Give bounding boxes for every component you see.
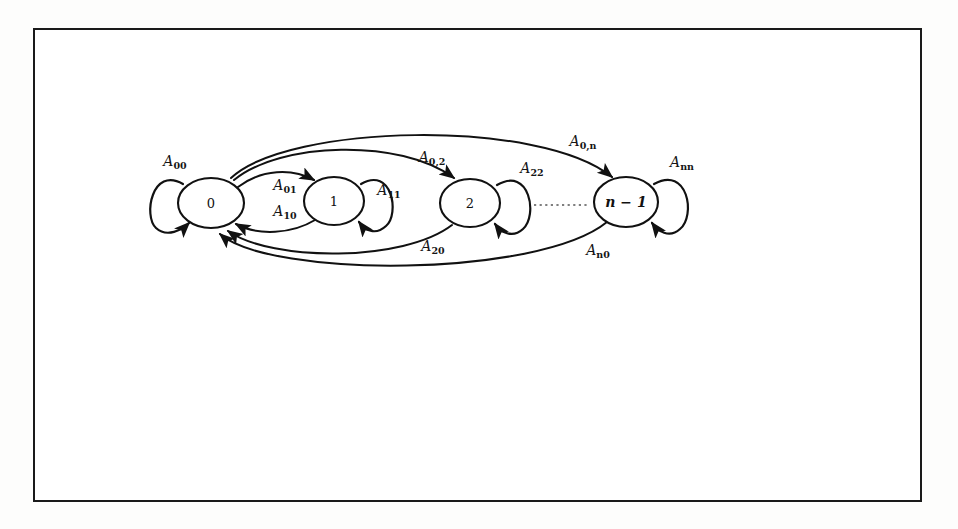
node-state-0[interactable]: 0	[178, 178, 244, 228]
edge-a10-path	[236, 220, 315, 232]
label-an0: An0	[584, 242, 610, 259]
node-state-1[interactable]: 1	[304, 177, 364, 225]
label-a22: A22	[518, 160, 543, 177]
label-a0n: A0,n	[568, 133, 597, 151]
node-state-n-minus-1[interactable]: n − 1	[594, 177, 658, 227]
label-a11: A11	[375, 182, 400, 199]
nodes-group: 0 1 2 n − 1	[178, 177, 658, 228]
node-state-2[interactable]: 2	[440, 179, 500, 227]
label-a01: A01	[271, 177, 296, 194]
node-state-2-label: 2	[466, 196, 474, 211]
state-diagram: 0 1 2 n − 1 A00 A01	[0, 0, 958, 529]
edge-a20-path	[228, 225, 452, 254]
label-a10: A10	[271, 203, 297, 220]
node-state-0-label: 0	[207, 196, 215, 211]
label-ann: Ann	[668, 154, 694, 171]
page-canvas: 0 1 2 n − 1 A00 A01	[0, 0, 958, 529]
node-state-n-minus-1-label: n − 1	[605, 194, 646, 210]
transition-edges-group	[220, 135, 612, 266]
label-a00: A00	[161, 153, 187, 170]
label-a20: A20	[419, 238, 445, 255]
node-state-1-label: 1	[330, 194, 338, 209]
label-a02: A0,2	[417, 149, 446, 167]
